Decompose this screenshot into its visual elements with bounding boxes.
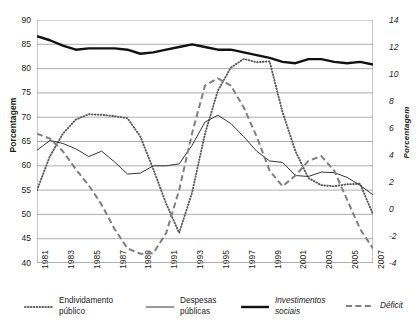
plot-area — [37, 20, 373, 263]
chart-container: Porcentagem Porcentagem 9085807570656055… — [0, 0, 417, 326]
y-axis-left-tick-label: 80 — [7, 64, 31, 73]
legend-item-endividamento-publico: Endividamento público — [24, 296, 113, 317]
legend-label: Déficit — [380, 301, 403, 312]
legend-swatch-solid-thick-icon — [240, 302, 270, 312]
y-axis-right-tick-label: 14 — [389, 16, 409, 25]
y-axis-left-tick-label: 90 — [7, 16, 31, 25]
y-axis-right-tick-label: 0 — [389, 205, 409, 214]
legend-swatch-solid-thin-icon — [145, 302, 175, 312]
legend-swatch-dotted-icon — [24, 302, 54, 312]
y-axis-left-tick-label: 70 — [7, 113, 31, 122]
legend-swatch-dashed-icon — [345, 301, 375, 311]
legend-label: Endividamento público — [59, 296, 113, 317]
y-axis-left-tick-label: 50 — [7, 210, 31, 219]
chart-legend: Endividamento público Despesas públicas … — [0, 294, 417, 326]
y-axis-right-tick-label: 8 — [389, 97, 409, 106]
y-axis-left-tick-label: 85 — [7, 40, 31, 49]
y-axis-right-tick-label: -2 — [389, 232, 409, 241]
legend-label: Investimentos sociais — [275, 296, 326, 317]
y-axis-right-tick-label: 2 — [389, 178, 409, 187]
x-axis-tick-label: 2007 — [377, 250, 386, 269]
series-line-despesas-p-blicas — [37, 115, 373, 195]
legend-item-despesas-publicas: Despesas públicas — [145, 296, 216, 317]
chart-plot-svg — [37, 20, 373, 263]
y-axis-right-tick-label: -4 — [389, 259, 409, 268]
legend-item-investimentos-sociais: Investimentos sociais — [240, 296, 326, 317]
series-line-investimentos-sociais — [37, 36, 373, 64]
y-axis-right-tick-label: 4 — [389, 151, 409, 160]
y-axis-right-tick-label: 12 — [389, 43, 409, 52]
y-axis-right-tick-label: 6 — [389, 124, 409, 133]
legend-item-deficit: Déficit — [345, 301, 403, 312]
y-axis-left-tick-label: 40 — [7, 259, 31, 268]
y-axis-left-tick-label: 65 — [7, 137, 31, 146]
y-axis-left-tick-label: 55 — [7, 186, 31, 195]
y-axis-right-tick-label: 10 — [389, 70, 409, 79]
y-axis-left-tick-label: 60 — [7, 161, 31, 170]
y-axis-left-tick-label: 75 — [7, 88, 31, 97]
y-axis-left-tick-label: 45 — [7, 234, 31, 243]
legend-label: Despesas públicas — [180, 296, 216, 317]
y-axis-left-title: Porcentagem — [8, 90, 18, 160]
